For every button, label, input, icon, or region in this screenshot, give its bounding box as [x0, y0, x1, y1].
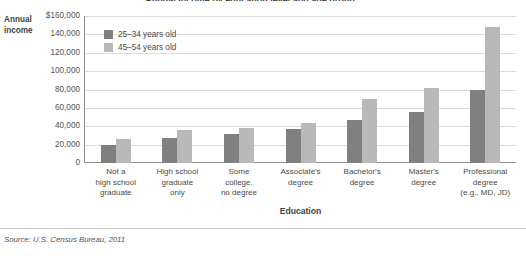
bar [470, 90, 485, 164]
x-tick-label: Not ahigh schoolgraduate [85, 167, 147, 199]
bar-group [208, 16, 270, 163]
y-tick-label: 80,000 [20, 86, 80, 94]
bar [177, 130, 192, 163]
x-tick-label: High schoolgraduateonly [147, 167, 209, 199]
bar [162, 138, 177, 163]
y-tick-label: 60,000 [20, 104, 80, 112]
bar [286, 129, 301, 163]
x-tick-label-line: only [148, 188, 208, 199]
chart-title: Annual income by education level and age… [60, 0, 440, 1]
chart-figure: Annual income by education level and age… [0, 0, 526, 256]
legend-label: 25–34 years old [118, 30, 176, 39]
bar [101, 145, 116, 163]
x-tick-label: Somecollege,no degree [208, 167, 270, 199]
y-tick-label: 0 [20, 159, 80, 167]
bar [116, 139, 131, 163]
x-tick-label-line: degree [271, 178, 331, 189]
x-tick-label-line: Bachelor's [332, 167, 392, 178]
y-tick-label: 140,000 [20, 30, 80, 38]
x-tick-label-line: Some [209, 167, 269, 178]
source-note: Source: U.S. Census Bureau, 2011 [4, 235, 125, 244]
y-tick-label: $160,000 [20, 12, 80, 20]
y-tick-label: 20,000 [20, 141, 80, 149]
footer-divider [0, 228, 526, 229]
x-tick-label-line: degree [394, 178, 454, 189]
bar [224, 134, 239, 163]
x-tick-label: Associate'sdegree [270, 167, 332, 199]
gridline [85, 163, 516, 164]
bar [409, 112, 424, 163]
x-tick-label-line: graduate [86, 188, 146, 199]
bar-group [393, 16, 455, 163]
bar [362, 99, 377, 163]
x-tick-label-line: high school [86, 178, 146, 189]
x-axis-title: Education [85, 206, 516, 216]
bar [239, 128, 254, 163]
chart-legend: 25–34 years old45–54 years old [100, 27, 180, 58]
bar [485, 27, 500, 163]
legend-label: 45–54 years old [118, 43, 176, 52]
legend-swatch [104, 43, 113, 52]
x-tick-label-line: no degree [209, 188, 269, 199]
legend-item: 45–54 years old [104, 42, 176, 53]
bar-group [270, 16, 332, 163]
legend-swatch [104, 30, 113, 39]
x-tick-label-line: Professional [455, 167, 515, 178]
bar-group [331, 16, 393, 163]
x-tick-label-line: High school [148, 167, 208, 178]
x-tick-label-line: degree [455, 178, 515, 189]
x-tick-label-line: college, [209, 178, 269, 189]
x-tick-label-line: (e.g., MD, JD) [455, 188, 515, 199]
y-tick-label: 40,000 [20, 122, 80, 130]
bar [301, 123, 316, 163]
x-tick-label-line: Master's [394, 167, 454, 178]
bar [424, 88, 439, 163]
legend-item: 25–34 years old [104, 29, 176, 40]
bar [347, 120, 362, 163]
y-tick-label: 120,000 [20, 49, 80, 57]
x-tick-label-line: Associate's [271, 167, 331, 178]
x-tick-label-line: degree [332, 178, 392, 189]
x-tick-label-line: Not a [86, 167, 146, 178]
x-axis-ticks: Not ahigh schoolgraduateHigh schoolgradu… [85, 167, 516, 199]
x-tick-label-line: graduate [148, 178, 208, 189]
x-tick-label: Master'sdegree [393, 167, 455, 199]
y-tick-label: 100,000 [20, 67, 80, 75]
x-tick-label: Bachelor'sdegree [331, 167, 393, 199]
bar-group [454, 16, 516, 163]
x-tick-label: Professionaldegree(e.g., MD, JD) [454, 167, 516, 199]
